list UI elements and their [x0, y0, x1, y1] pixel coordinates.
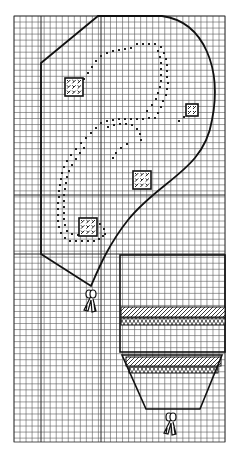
needlework-chart	[0, 0, 241, 454]
motif-squares	[65, 78, 198, 236]
lampshade-shape	[120, 255, 225, 409]
tassel-icon	[164, 413, 176, 435]
graph-grid	[14, 16, 225, 442]
tassel-icon	[84, 290, 96, 312]
